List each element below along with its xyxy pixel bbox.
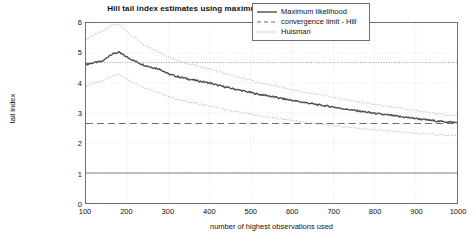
legend-swatch-2 [256, 27, 278, 37]
data-series-0 [86, 52, 457, 123]
x-tick-label-6: 700 [314, 207, 354, 216]
legend-swatch-1 [256, 17, 278, 27]
y-tick-label-6: 6 [62, 18, 82, 27]
chart-legend: Maximum likelihoodconvergence limit - Hi… [252, 3, 370, 41]
legend-item-0[interactable]: Maximum likelihood [256, 7, 365, 17]
chart-title: Hill tail index estimates using maximum … [0, 4, 476, 13]
plot-area [85, 22, 458, 204]
legend-item-2[interactable]: Huisman [256, 27, 365, 37]
legend-swatch-0 [256, 7, 278, 17]
x-tick-label-3: 400 [189, 207, 229, 216]
y-tick-label-2: 2 [62, 139, 82, 148]
y-tick-label-4: 4 [62, 78, 82, 87]
x-axis-label: number of highest observations used [85, 222, 458, 231]
legend-item-1[interactable]: convergence limit - Hill [256, 17, 365, 27]
x-tick-label-8: 900 [397, 207, 437, 216]
legend-label-1: convergence limit - Hill [281, 17, 356, 27]
x-tick-label-0: 100 [65, 207, 105, 216]
plot-canvas [86, 23, 457, 203]
y-axis-ticks: 0123456 [61, 22, 82, 204]
x-tick-label-2: 300 [148, 207, 188, 216]
x-tick-label-9: 1000 [438, 207, 476, 216]
chart-figure: Hill tail index estimates using maximum … [0, 0, 476, 243]
legend-label-0: Maximum likelihood [281, 7, 347, 17]
legend-label-2: Huisman [281, 27, 311, 37]
y-tick-label-5: 5 [62, 48, 82, 57]
y-tick-label-3: 3 [62, 109, 82, 118]
x-axis-ticks: 1002003004005006007008009001000 [85, 207, 458, 219]
x-tick-label-1: 200 [106, 207, 146, 216]
x-tick-label-7: 800 [355, 207, 395, 216]
y-tick-label-1: 1 [62, 169, 82, 178]
x-tick-label-5: 600 [272, 207, 312, 216]
y-axis-label: tail index [8, 74, 17, 144]
x-tick-label-4: 500 [231, 207, 271, 216]
